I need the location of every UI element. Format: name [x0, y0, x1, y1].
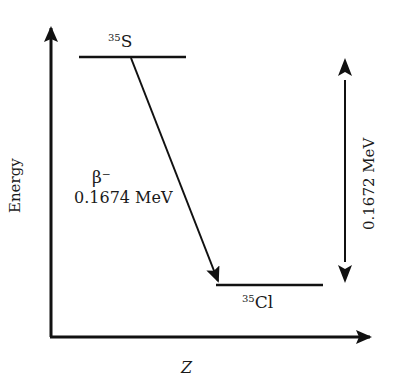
parent-mass-number: 35	[108, 32, 121, 43]
transition-type-label: β⁻	[92, 167, 111, 187]
daughter-mass-number: 35	[242, 293, 255, 304]
diagram-graphics	[0, 0, 396, 390]
parent-symbol: S	[121, 31, 133, 51]
daughter-symbol: Cl	[255, 292, 273, 312]
parent-nuclide-label: 35S	[108, 31, 132, 51]
y-axis-label: Energy	[6, 158, 24, 213]
energy-gap-arrow-top-head	[338, 58, 352, 76]
daughter-nuclide-label: 35Cl	[242, 292, 273, 312]
beta-decay-arrow	[131, 58, 218, 281]
decay-diagram: 35S 35Cl β⁻ 0.1674 MeV Energy Z 0.1672 M…	[0, 0, 396, 390]
transition-energy-label: 0.1674 MeV	[74, 188, 172, 207]
x-axis-label: Z	[181, 358, 192, 377]
energy-gap-label: 0.1672 MeV	[360, 138, 378, 230]
energy-gap-arrow-bottom-head	[338, 265, 352, 283]
